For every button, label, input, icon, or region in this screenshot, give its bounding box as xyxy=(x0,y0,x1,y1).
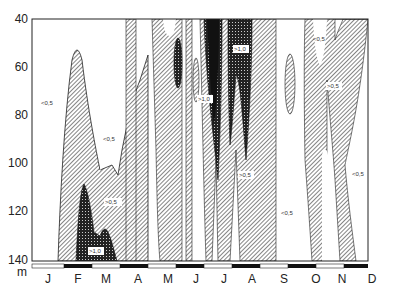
x-tick: F xyxy=(74,272,81,286)
x-tick: J xyxy=(193,272,199,286)
y-unit: m xyxy=(17,265,27,279)
x-tick: O xyxy=(311,272,320,286)
y-tick: 120 xyxy=(8,204,28,218)
contour-label: <0,5 xyxy=(352,171,365,177)
y-tick: 80 xyxy=(15,108,29,122)
y-tick: 100 xyxy=(8,156,28,170)
x-tick: J xyxy=(221,272,227,286)
contour-label: >0,5 xyxy=(327,83,340,89)
x-tick: A xyxy=(134,272,142,286)
x-tick: D xyxy=(368,272,377,286)
y-tick: 60 xyxy=(15,60,29,74)
y-axis: 40 60 80 100 120 140 m xyxy=(8,12,28,279)
contour-chart: 40 60 80 100 120 140 m J F M A M J J A S… xyxy=(0,0,399,290)
contour-label: <0,5 xyxy=(41,100,54,106)
contour-label: <0,5 xyxy=(103,136,116,142)
x-tick: M xyxy=(163,272,173,286)
x-tick: S xyxy=(280,272,288,286)
y-tick: 40 xyxy=(15,12,29,26)
contour-label: >0,5 xyxy=(239,172,252,178)
x-tick: M xyxy=(101,272,111,286)
contour-label: >1,0 xyxy=(89,248,102,254)
month-bar xyxy=(32,264,368,268)
contour-label: >1,0 xyxy=(234,46,247,52)
contour-label: >1,0 xyxy=(198,96,211,102)
x-tick: J xyxy=(45,272,51,286)
contour-label: >0,5 xyxy=(105,199,118,205)
x-tick: A xyxy=(248,272,256,286)
x-tick: N xyxy=(338,272,347,286)
x-axis: J F M A M J J A S O N D xyxy=(45,272,377,286)
contour-label: <0,5 xyxy=(281,210,294,216)
contour-label: <0,5 xyxy=(313,36,326,42)
